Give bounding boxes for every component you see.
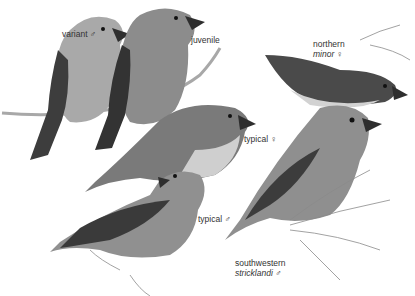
label-line: southwestern	[235, 258, 286, 268]
label-line-italic: minor ♀	[313, 49, 345, 59]
label-line-italic: stricklandi ♂	[235, 268, 286, 278]
label-juvenile: juvenile	[191, 35, 220, 45]
label-typical-male: typical ♂	[198, 214, 231, 224]
label-line: northern	[313, 39, 345, 49]
bird-northern-minor-female	[265, 55, 408, 108]
crossbill-illustration-plate: variant ♂ juvenile northern minor ♀ typi…	[0, 0, 415, 296]
label-northern-minor-female: northern minor ♀	[313, 39, 345, 59]
label-typical-female: typical ♀	[244, 134, 277, 144]
bird-typical-male	[50, 171, 205, 257]
label-stricklandi-male: southwestern stricklandi ♂	[235, 258, 286, 278]
label-variant-male: variant ♂	[62, 29, 96, 39]
